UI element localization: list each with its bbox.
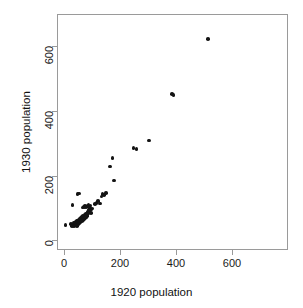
data-point [64,223,68,227]
x-axis-tick [120,250,121,255]
x-axis-tick [232,250,233,255]
data-point [108,165,112,169]
x-axis-tick-label: 400 [156,257,196,270]
x-axis-tick-label: 200 [100,257,140,270]
data-point [147,139,151,143]
scatter-plot-figure: 0200400600 0200400600 1920 population 19… [0,0,303,308]
data-points-layer [58,15,287,249]
data-point [135,147,139,151]
data-point [172,93,176,97]
plot-panel [57,14,288,250]
y-axis-label: 1930 population [17,14,35,250]
x-axis-tick-label: 600 [212,257,252,270]
data-point [89,211,93,215]
data-point [111,156,115,160]
data-point [206,37,210,41]
data-point [77,192,81,196]
data-point [104,191,108,195]
x-axis-tick [176,250,177,255]
data-point [91,207,95,211]
data-point [71,203,75,207]
data-point [112,179,116,183]
x-axis-label: 1920 population [0,286,303,298]
data-point [98,202,102,206]
